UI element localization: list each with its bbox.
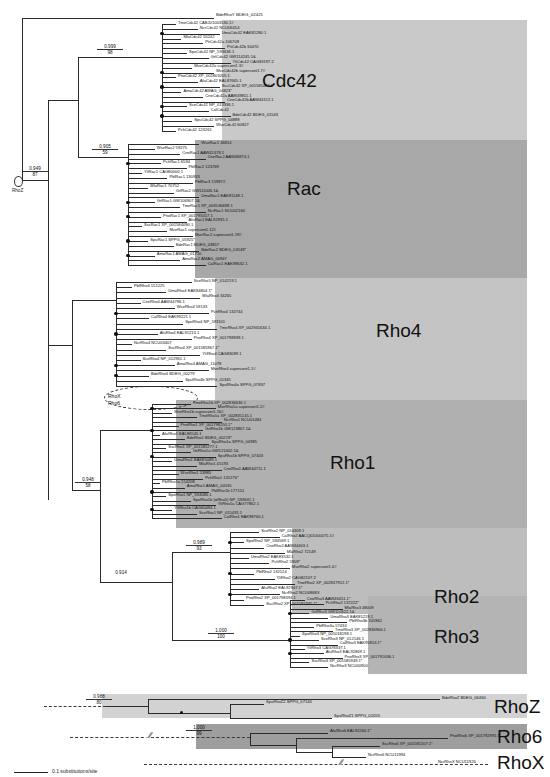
support-dot	[126, 201, 129, 204]
support-rho6: 1.000 99	[186, 725, 212, 736]
branch-rho6-rest	[250, 745, 296, 746]
support-dot	[126, 162, 129, 165]
tip-label: CalRho3 EAK95853.1*	[340, 641, 382, 646]
tip-spurhoz1: SpuRhoZ1 SPPG_02053	[334, 714, 380, 719]
branch-tip	[162, 53, 187, 54]
branch-tip	[290, 627, 314, 628]
branch-rho1-clade	[100, 430, 152, 431]
tip-label: WseCdc42 60827	[216, 123, 249, 128]
branch-tip	[230, 574, 254, 575]
vert-rho2-rho3	[172, 552, 173, 640]
tip-label: MveRac2 supercont1.19#	[195, 233, 242, 238]
support-dot	[160, 85, 163, 88]
branch-tip	[152, 439, 185, 440]
branch-tip	[128, 236, 193, 237]
branch-tip	[230, 589, 259, 590]
support-root-bootstrap: 87	[22, 171, 48, 177]
support-rho3-bootstrap: 100	[208, 633, 234, 639]
branch-backbone-2	[48, 345, 72, 346]
branch-rac-stem	[78, 157, 128, 158]
branch-tip	[128, 265, 206, 266]
branch-tip	[152, 408, 216, 409]
branch-rhoz1	[230, 718, 332, 719]
clade-label-rho2: Rho2	[434, 586, 479, 608]
branch-tip	[116, 386, 217, 387]
branch-tip	[230, 568, 290, 569]
tip-label: CalRho1 EAK98760.1	[224, 515, 264, 520]
branch-tip	[162, 82, 198, 83]
branch-tip	[230, 532, 259, 533]
support-dot	[288, 612, 291, 615]
support-dot	[126, 254, 129, 257]
support-dot	[150, 508, 153, 511]
tip-label: NcrRac1 NCU02160	[208, 209, 245, 214]
branch-tip	[128, 197, 199, 198]
branch-tip	[152, 470, 222, 471]
branch-rho2-stem	[172, 552, 230, 553]
branch-rhoz-stem	[106, 706, 148, 707]
support-cdc42-bootstrap: 98	[97, 49, 123, 55]
branch-tip	[162, 24, 176, 25]
support-dot	[150, 429, 153, 432]
branch-tip	[152, 404, 191, 405]
branch-tip	[230, 558, 249, 559]
tip-label: PblRho3b 105962	[349, 619, 382, 624]
branch-tip	[290, 609, 343, 610]
tip-label: PblRac2 123789	[189, 165, 219, 170]
tip-pnorho6: PnoRho6 XP_001792991.1	[450, 734, 500, 739]
branch-tip	[162, 73, 214, 74]
branch-tip	[128, 212, 206, 213]
branch-tip	[162, 97, 203, 98]
branch-tip	[152, 466, 197, 467]
tip-label: BdeRac2 BDEG_03149*	[201, 248, 246, 253]
tip-label: PblRac3 159872	[195, 180, 225, 185]
branch-tip	[230, 579, 275, 580]
branch-tip	[152, 422, 222, 423]
tip-label: NcrRho4 NCU03407	[134, 341, 172, 346]
branch-tip	[116, 376, 149, 377]
branch-tip	[162, 102, 225, 103]
tip-label: WseRho4 59133	[177, 305, 208, 310]
branch-break-rho6: //	[145, 732, 153, 740]
branch-tip	[290, 622, 347, 623]
branch-tip	[290, 600, 305, 601]
support-rhoz-bootstrap: 80	[86, 699, 112, 705]
support-dot	[288, 638, 291, 641]
support-cdc42: 0.999 98	[97, 44, 123, 55]
branch-rho6-pno	[296, 738, 448, 739]
branch-tip	[152, 444, 209, 445]
branch-tip	[128, 149, 155, 150]
tip-label: PblRho4 151225	[134, 284, 165, 289]
branch-tip	[162, 77, 176, 78]
branch-tip	[230, 542, 244, 543]
branch-rho123-stem	[72, 490, 100, 491]
branch-tip	[128, 202, 155, 203]
branch-tip	[128, 217, 161, 218]
branch-tip	[116, 282, 192, 283]
support-dot	[288, 652, 291, 655]
branch-tip	[152, 518, 222, 519]
tip-label: CalRho2 AACQ01000075.1#	[282, 534, 334, 539]
tip-sscrho6: SscRho6 XP_001581107.1*	[382, 742, 433, 747]
branch-tip	[128, 154, 180, 155]
support-rho2-bootstrap: 93	[186, 545, 212, 551]
tip-ncrrhox: NcrRhoX NCU11926	[438, 760, 476, 765]
scale-bar-label: 0.1 substitutions/site	[52, 768, 97, 774]
branch-rhoz-dashed	[44, 706, 106, 707]
branch-tip	[152, 510, 172, 511]
branch-tip	[152, 457, 216, 458]
tip-label: MveRho2 supercont1.4#	[292, 565, 337, 570]
branch-tip	[128, 222, 187, 223]
tip-label: MveRho4 supercont1.1#	[211, 367, 256, 372]
branch-tip	[116, 313, 209, 314]
branch-tip	[116, 287, 132, 288]
branch-rho6-dashed	[70, 737, 250, 738]
branch-tip	[162, 68, 192, 69]
branch-cdc42rac	[48, 100, 78, 101]
root-label: RhoZ	[12, 188, 23, 193]
tip-spurhoz2: SpuRhoZ2 SPPG_07140	[266, 700, 312, 705]
support-rho1-bootstrap: 58	[75, 482, 101, 488]
clade-label-rho4: Rho4	[376, 320, 421, 342]
annotation-label-rho6: Rho6	[108, 401, 120, 406]
branch-tip	[290, 631, 333, 632]
